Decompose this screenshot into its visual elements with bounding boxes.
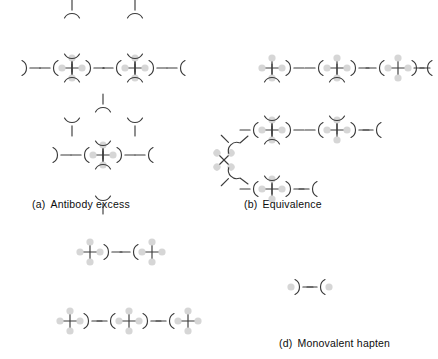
antibody (149, 61, 167, 76)
antigen (384, 54, 411, 81)
antibody (135, 148, 153, 163)
antibody (96, 94, 111, 112)
antibody (307, 280, 325, 295)
figure-canvas: line,path{stroke:#3c3c3c;stroke-width:1.… (0, 0, 438, 359)
hapten (287, 283, 294, 290)
antigen (174, 307, 201, 334)
antibody (97, 314, 115, 329)
antibody (366, 61, 384, 76)
antibody (40, 61, 58, 76)
antibody (240, 123, 258, 138)
antigen-antibody-diagram: line,path{stroke:#3c3c3c;stroke-width:1.… (0, 0, 438, 359)
antibody (104, 245, 122, 260)
antigen (56, 307, 83, 334)
antibody (71, 148, 89, 163)
antibody (120, 245, 138, 260)
caption-label-b: Equivalence (262, 198, 321, 210)
antigen (138, 238, 165, 265)
antibody (167, 61, 185, 76)
antibody (299, 182, 317, 197)
antibody (103, 61, 121, 76)
antibody (128, 0, 143, 18)
caption-panel-d: (d)Monovalent hapten (279, 337, 390, 349)
panel-b-equivalence (205, 54, 432, 202)
caption-label-a: Antibody excess (50, 198, 129, 210)
antibody (65, 118, 80, 136)
antibody (156, 314, 174, 329)
panel-a-antibody-excess (22, 0, 185, 214)
antibody (128, 118, 143, 136)
caption-panel-b: (b)Equivalence (244, 198, 322, 210)
antibody (363, 123, 381, 138)
antigen (76, 238, 103, 265)
antigen (205, 141, 243, 179)
antibody (286, 61, 304, 76)
antibody (86, 61, 104, 76)
caption-tag-b: (b) (244, 198, 257, 210)
caption-panel-a: (a)Antibody excess (32, 198, 130, 210)
antibody (22, 61, 40, 76)
antibody (53, 148, 71, 163)
antibody (305, 61, 323, 76)
antibody (65, 0, 80, 18)
antibody (305, 123, 323, 138)
caption-tag-a: (a) (32, 198, 45, 210)
antibody (216, 168, 239, 191)
antibody (216, 130, 239, 153)
caption-tag-d: (d) (279, 337, 292, 349)
caption-label-d: Monovalent hapten (297, 337, 390, 349)
antibody (240, 182, 258, 197)
antigen (115, 307, 142, 334)
panel-c-antigen-excess (56, 238, 201, 334)
panel-d-monovalent-hapten (287, 280, 332, 295)
antibody (286, 123, 304, 138)
antibody (117, 148, 135, 163)
hapten (325, 283, 332, 290)
